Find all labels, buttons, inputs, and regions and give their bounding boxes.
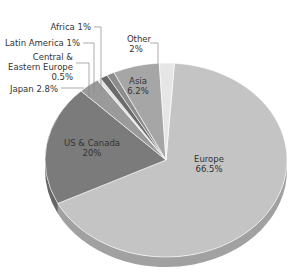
label-us-canada-name: US & Canada [64, 138, 120, 148]
label-africa: Africa 1% [51, 22, 91, 32]
leader-line [150, 43, 158, 64]
label-other-name: Other [127, 34, 152, 44]
label-other-pct: 2% [129, 44, 143, 54]
label-japan: Japan 2.8% [9, 84, 58, 94]
pie-chart: Africa 1%Latin America 1%Central &Easter… [0, 0, 305, 276]
label-europe-pct: 66.5% [195, 164, 222, 174]
label-us-canada-pct: 20% [83, 148, 102, 158]
label-cee-line2: Eastern Europe [8, 62, 73, 72]
label-asia-name: Asia [129, 76, 147, 86]
label-cee-line3: 0.5% [51, 72, 73, 82]
label-cee-line1: Central & [33, 52, 74, 62]
label-latin-america: Latin America 1% [5, 38, 80, 48]
label-europe-name: Europe [194, 154, 224, 164]
label-asia-pct: 6.2% [127, 86, 149, 96]
